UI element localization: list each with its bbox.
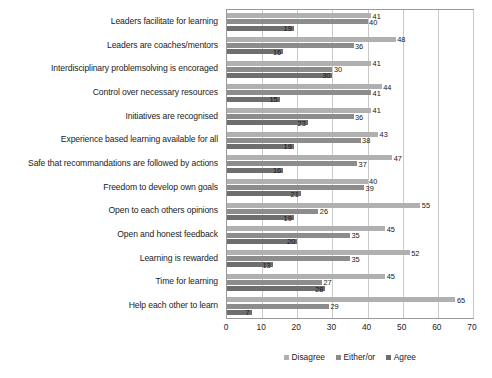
bar-either-or: 37 — [227, 161, 473, 166]
legend-item[interactable]: Either/or — [336, 352, 375, 362]
bar-agree: 15 — [227, 97, 473, 102]
bar-disagree: 48 — [227, 37, 473, 42]
category-label: Time for learning — [0, 276, 218, 286]
bar-rect — [227, 61, 371, 66]
bar-group: 552619 — [227, 203, 473, 220]
bar-either-or: 26 — [227, 209, 473, 214]
bar-rect — [227, 108, 371, 113]
bar-group: 65297 — [227, 297, 473, 314]
x-tick-label: 10 — [256, 322, 265, 332]
bar-either-or: 39 — [227, 185, 473, 190]
category-label: Open to each others opinions — [0, 205, 218, 215]
bar-either-or: 36 — [227, 43, 473, 48]
bar-agree: 13 — [227, 262, 473, 267]
bar-value-label: 20 — [287, 237, 297, 246]
bar-agree: 16 — [227, 168, 473, 173]
bar-rect — [227, 226, 385, 231]
bar-value-label: 16 — [273, 166, 283, 175]
bar-either-or: 27 — [227, 280, 473, 285]
bar-agree: 20 — [227, 239, 473, 244]
bar-either-or: 30 — [227, 67, 473, 72]
bar-group: 403921 — [227, 179, 473, 196]
bar-rect — [227, 280, 322, 285]
bar-agree: 23 — [227, 120, 473, 125]
bar-group: 452728 — [227, 274, 473, 291]
bar-agree: 19 — [227, 144, 473, 149]
bar-either-or: 40 — [227, 19, 473, 24]
bar-value-label: 16 — [273, 47, 283, 56]
bar-value-label: 28 — [315, 284, 325, 293]
legend-item[interactable]: Agree — [386, 352, 416, 362]
bar-value-label: 19 — [284, 24, 294, 33]
bar-rect — [227, 155, 392, 160]
x-tick-label: 40 — [362, 322, 371, 332]
bar-disagree: 41 — [227, 61, 473, 66]
bar-value-label: 13 — [262, 260, 272, 269]
bar-disagree: 45 — [227, 274, 473, 279]
bar-rect — [227, 250, 410, 255]
bar-either-or: 38 — [227, 138, 473, 143]
category-label: Learning is rewarded — [0, 253, 218, 263]
category-label: Leaders facilitate for learning — [0, 16, 218, 26]
bar-value-label: 19 — [284, 142, 294, 151]
bar-rect — [227, 84, 382, 89]
legend-item[interactable]: Disagree — [284, 352, 325, 362]
bar-agree: 16 — [227, 49, 473, 54]
bar-value-label: 23 — [298, 118, 308, 127]
category-label: Safe that recommandations are followed b… — [0, 158, 218, 168]
category-label: Open and honest feedback — [0, 229, 218, 239]
x-axis-tick-labels: 010203040506070 — [226, 322, 474, 336]
bar-either-or: 29 — [227, 304, 473, 309]
legend-label: Either/or — [344, 352, 376, 362]
bar-rect — [227, 304, 329, 309]
bar-rect — [227, 43, 354, 48]
bar-rect — [227, 274, 385, 279]
category-label: Help each other to learn — [0, 300, 218, 310]
gridline — [473, 10, 474, 318]
bar-group: 523513 — [227, 250, 473, 267]
bar-rect — [227, 37, 396, 42]
bar-group: 444115 — [227, 84, 473, 101]
bar-value-label: 30 — [322, 71, 332, 80]
bar-group: 473716 — [227, 155, 473, 172]
bar-value-label: 7 — [245, 308, 251, 317]
bar-either-or: 41 — [227, 90, 473, 95]
x-tick-label: 0 — [224, 322, 229, 332]
bar-agree: 7 — [227, 310, 473, 315]
bar-rect — [227, 209, 318, 214]
x-tick-label: 70 — [467, 322, 476, 332]
x-tick-label: 60 — [432, 322, 441, 332]
horizontal-bar-chart: Leaders facilitate for learningLeaders a… — [0, 0, 492, 378]
bar-agree: 21 — [227, 191, 473, 196]
bar-value-label: 21 — [291, 189, 301, 198]
bar-agree: 28 — [227, 286, 473, 291]
category-label: Control over necessary resources — [0, 87, 218, 97]
bar-group: 453520 — [227, 226, 473, 243]
bar-disagree: 44 — [227, 84, 473, 89]
bar-disagree: 55 — [227, 203, 473, 208]
bar-group: 413623 — [227, 108, 473, 125]
bar-group: 414019 — [227, 13, 473, 30]
category-label: Initiatives are recognised — [0, 111, 218, 121]
bar-disagree: 65 — [227, 297, 473, 302]
category-label: Leaders are coaches/mentors — [0, 40, 218, 50]
category-label: Freedom to develop own goals — [0, 182, 218, 192]
legend-label: Agree — [394, 352, 416, 362]
category-label: Experience based learning available for … — [0, 134, 218, 144]
bar-rect — [227, 120, 308, 125]
bar-either-or: 35 — [227, 233, 473, 238]
chart-legend: DisagreeEither/orAgree — [226, 352, 474, 362]
x-tick-label: 30 — [327, 322, 336, 332]
bar-disagree: 41 — [227, 13, 473, 18]
legend-label: Disagree — [291, 352, 325, 362]
category-axis-labels: Leaders facilitate for learningLeaders a… — [0, 9, 222, 319]
bar-rect — [227, 161, 357, 166]
x-tick-label: 20 — [292, 322, 301, 332]
bar-disagree: 43 — [227, 132, 473, 137]
category-label: Interdisciplinary problemsolving is enco… — [0, 63, 218, 73]
legend-swatch-icon — [386, 355, 391, 360]
bar-rect — [227, 179, 368, 184]
bar-group: 483616 — [227, 37, 473, 54]
bar-rect — [227, 67, 332, 72]
bar-agree: 19 — [227, 215, 473, 220]
